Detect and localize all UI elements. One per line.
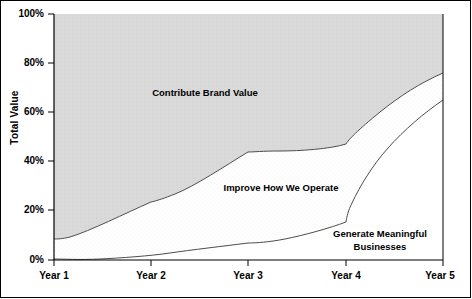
annotation-generate-meaningful-businesses-line1: Generate Meaningful [310, 227, 450, 240]
x-tick-label-year-3: Year 3 [218, 270, 278, 281]
y-tick-label-60: 60% [0, 106, 44, 117]
annotation-generate-meaningful-businesses-line2: Businesses [310, 240, 450, 253]
y-tick-label-0: 0% [0, 254, 44, 265]
y-tick-label-20: 20% [0, 204, 44, 215]
y-axis-title: Total Value [9, 78, 20, 158]
y-tick-label-40: 40% [0, 155, 44, 166]
stacked-area-chart: Total Value 100% 80% 60% 40% 20% 0% Year… [0, 0, 472, 299]
x-tick-label-year-1: Year 1 [24, 270, 84, 281]
x-tick-label-year-2: Year 2 [121, 270, 181, 281]
y-tick-label-100: 100% [0, 8, 44, 19]
chart-plot-area [0, 0, 472, 299]
annotation-contribute-brand-value: Contribute Brand Value [125, 86, 285, 99]
x-tick-label-year-4: Year 4 [316, 270, 376, 281]
y-tick-label-80: 80% [0, 57, 44, 68]
annotation-improve-how-we-operate: Improve How We Operate [201, 181, 361, 194]
x-tick-label-year-5: Year 5 [410, 270, 470, 281]
